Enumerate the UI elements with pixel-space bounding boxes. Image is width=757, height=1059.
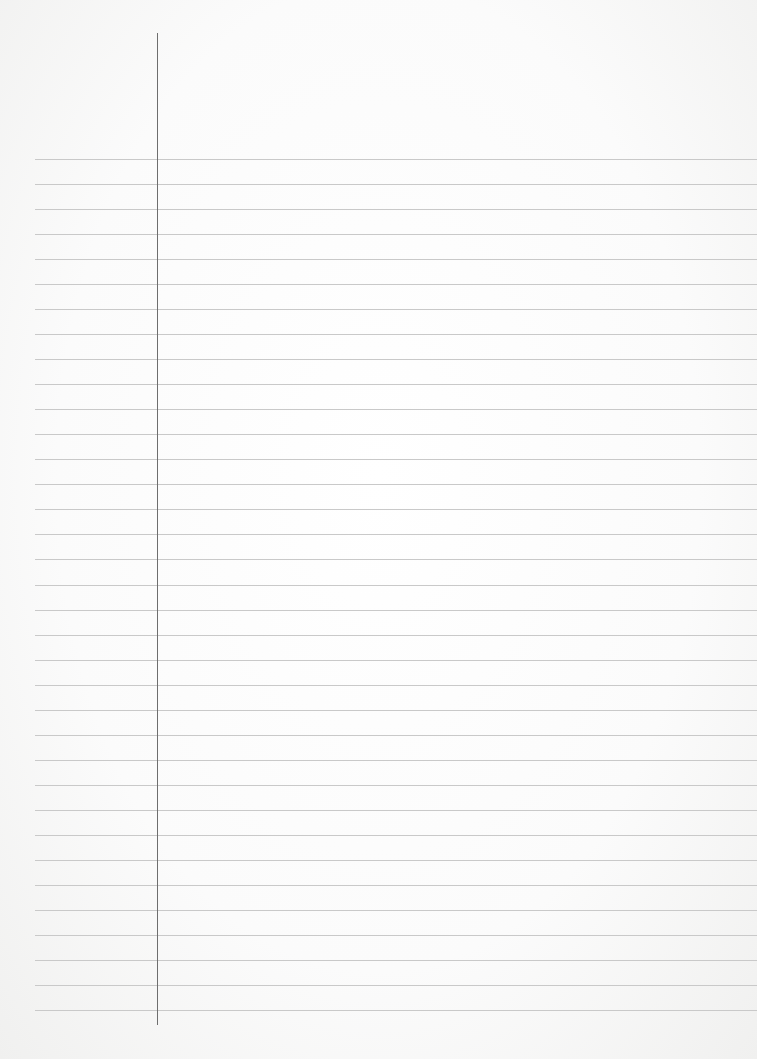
ruled-line (35, 1010, 757, 1011)
ruled-line (35, 509, 757, 510)
ruled-line (35, 534, 757, 535)
ruled-line (35, 384, 757, 385)
ruled-line (35, 810, 757, 811)
margin-line (157, 33, 158, 1025)
ruled-line (35, 660, 757, 661)
ruled-line (35, 960, 757, 961)
ruled-line (35, 735, 757, 736)
ruled-line (35, 184, 757, 185)
ruled-line (35, 409, 757, 410)
lined-paper-sheet (0, 0, 757, 1059)
ruled-line (35, 284, 757, 285)
ruled-line (35, 710, 757, 711)
ruled-line (35, 259, 757, 260)
ruled-line (35, 935, 757, 936)
ruled-line (35, 785, 757, 786)
ruled-line (35, 559, 757, 560)
ruled-line (35, 459, 757, 460)
ruled-line (35, 234, 757, 235)
ruled-line (35, 159, 757, 160)
ruled-line (35, 359, 757, 360)
ruled-line (35, 334, 757, 335)
ruled-line (35, 635, 757, 636)
ruled-line (35, 910, 757, 911)
ruled-line (35, 985, 757, 986)
ruled-line (35, 585, 757, 586)
ruled-line (35, 434, 757, 435)
ruled-line (35, 685, 757, 686)
ruled-line (35, 309, 757, 310)
ruled-line (35, 760, 757, 761)
ruled-line (35, 610, 757, 611)
ruled-line (35, 860, 757, 861)
ruled-line (35, 484, 757, 485)
ruled-line (35, 885, 757, 886)
ruled-line (35, 835, 757, 836)
ruled-line (35, 209, 757, 210)
